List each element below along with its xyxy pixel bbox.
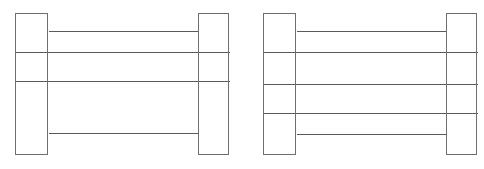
figure-left-right-end-plate xyxy=(199,14,229,155)
diagram-canvas xyxy=(0,0,484,169)
figure-left-beam-section xyxy=(16,14,230,155)
figure-left-left-end-plate xyxy=(16,14,48,155)
beam-sections-drawing xyxy=(0,0,484,169)
figure-right-beam-section xyxy=(264,14,478,155)
